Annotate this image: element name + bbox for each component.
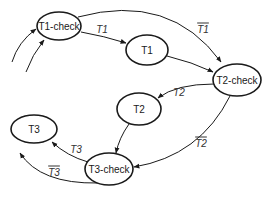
edge-in2-arrow bbox=[26, 40, 44, 72]
edge-label-t2check-t2: T2 bbox=[173, 87, 185, 98]
node-label-t1: T1 bbox=[141, 45, 153, 56]
state-diagram: T1T1T2T2T3T3T1-checkT1T2-checkT2T3-check… bbox=[0, 0, 262, 197]
node-label-t1check: T1-check bbox=[38, 21, 79, 32]
node-label-t2check: T2-check bbox=[216, 75, 257, 86]
edge-label-t1check-t2check: T1 bbox=[197, 24, 209, 35]
node-label-t3check: T3-check bbox=[88, 164, 129, 175]
edge-label-t2check-t3check: T2 bbox=[195, 138, 207, 149]
edge-label-t3check-t3: T3 bbox=[70, 144, 82, 155]
edge-label-t3check-out: T3 bbox=[48, 167, 60, 178]
node-label-t2: T2 bbox=[133, 104, 145, 115]
node-label-t3: T3 bbox=[28, 124, 40, 135]
node-layer bbox=[11, 12, 261, 185]
edge-label-t1check-t1: T1 bbox=[96, 24, 108, 35]
edge-t2-t3check-arrow bbox=[116, 124, 129, 153]
edge-t2check-t2-arrow bbox=[158, 84, 214, 98]
edge-t1-t2check-arrow bbox=[167, 56, 213, 72]
